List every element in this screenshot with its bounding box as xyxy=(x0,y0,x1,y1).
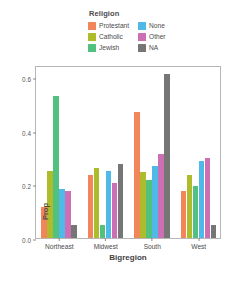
x-axis-tick: South xyxy=(144,238,161,250)
legend-item-catholic[interactable]: Catholic xyxy=(88,32,129,42)
bar xyxy=(106,171,112,238)
legend-item-label: Jewish xyxy=(99,43,119,52)
legend-item-label: None xyxy=(149,21,165,30)
bar xyxy=(140,172,146,238)
bar xyxy=(100,225,106,238)
legend-item-na[interactable]: NA xyxy=(138,43,166,53)
y-axis-label: Prop xyxy=(41,182,50,242)
legend-column: ProtestantCatholicJewish xyxy=(88,21,129,53)
bar xyxy=(187,175,193,238)
x-axis-tick-mark xyxy=(152,238,153,241)
legend-swatch-icon xyxy=(138,22,146,30)
chart-legend: Religion ProtestantCatholicJewishNoneOth… xyxy=(88,9,198,53)
bar xyxy=(71,225,77,238)
x-axis-tick-mark xyxy=(59,238,60,241)
bar xyxy=(199,161,205,238)
legend-item-other[interactable]: Other xyxy=(138,32,166,42)
bar xyxy=(146,180,152,238)
x-axis-tick: West xyxy=(191,238,206,250)
x-axis-tick-mark xyxy=(105,238,106,241)
y-axis-tick: 0.0 xyxy=(22,237,36,244)
y-axis-tick-mark xyxy=(33,79,36,80)
x-axis-tick-label: South xyxy=(144,243,161,250)
x-axis-tick-label: Midwest xyxy=(94,243,118,250)
legend-item-jewish[interactable]: Jewish xyxy=(88,43,129,53)
bar xyxy=(112,183,118,238)
legend-item-label: Protestant xyxy=(99,21,129,30)
bar xyxy=(134,112,140,238)
x-axis-tick-mark xyxy=(198,238,199,241)
legend-swatch-icon xyxy=(88,44,96,52)
plot-area xyxy=(36,67,220,238)
bar xyxy=(53,96,59,238)
x-axis-label: Bigregion xyxy=(36,253,220,262)
x-axis-tick: Northeast xyxy=(45,238,74,250)
y-axis-tick: 0.6 xyxy=(22,76,36,83)
bar xyxy=(118,164,124,238)
bar xyxy=(205,158,211,238)
y-axis-tick-label: 0.6 xyxy=(22,76,31,83)
x-axis-tick: Midwest xyxy=(94,238,118,250)
legend-item-label: NA xyxy=(149,43,158,52)
legend-swatch-icon xyxy=(138,44,146,52)
legend-item-none[interactable]: None xyxy=(138,21,166,31)
legend-column: NoneOtherNA xyxy=(138,21,166,53)
legend-item-label: Catholic xyxy=(99,32,123,41)
x-axis-tick-label: West xyxy=(191,243,206,250)
y-axis-tick-label: 0.0 xyxy=(22,237,31,244)
bar xyxy=(181,191,187,238)
y-axis-tick-mark xyxy=(33,240,36,241)
legend-item-label: Other xyxy=(149,32,166,41)
bar-chart-figure: Religion ProtestantCatholicJewishNoneOth… xyxy=(0,0,237,284)
y-axis-tick: 0.4 xyxy=(22,129,36,136)
x-axis-tick-label: Northeast xyxy=(45,243,74,250)
y-axis-tick-mark xyxy=(33,132,36,133)
plot-panel: Prop Bigregion 0.00.20.40.6NortheastMidw… xyxy=(35,66,221,239)
bar xyxy=(193,186,199,238)
bar xyxy=(164,74,170,238)
legend-title: Religion xyxy=(88,9,198,18)
bar xyxy=(88,175,94,238)
bar xyxy=(59,189,65,238)
bar xyxy=(65,191,71,238)
bar xyxy=(152,166,158,238)
bar xyxy=(94,168,100,238)
legend-item-protestant[interactable]: Protestant xyxy=(88,21,129,31)
bar xyxy=(158,154,164,238)
bar xyxy=(211,225,217,238)
legend-swatch-icon xyxy=(88,22,96,30)
legend-columns: ProtestantCatholicJewishNoneOtherNA xyxy=(88,21,198,53)
y-axis-tick-mark xyxy=(33,186,36,187)
y-axis-tick-label: 0.2 xyxy=(22,183,31,190)
figure-caption xyxy=(10,276,228,284)
y-axis-tick-label: 0.4 xyxy=(22,129,31,136)
legend-swatch-icon xyxy=(138,33,146,41)
y-axis-tick: 0.2 xyxy=(22,183,36,190)
legend-swatch-icon xyxy=(88,33,96,41)
